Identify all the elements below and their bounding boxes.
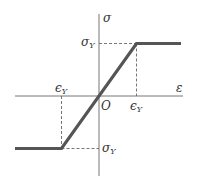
yield-strain-label-negative: ϵY <box>55 81 68 96</box>
yield-stress-label-top: σY <box>81 35 95 50</box>
yield-strain-label-positive: ϵY <box>130 99 143 114</box>
yield-stress-label-bottom: σY <box>102 141 116 156</box>
stress-strain-diagram: σ ε O σY σY ϵY ϵY <box>0 0 198 186</box>
origin-label: O <box>101 99 111 113</box>
strain-axis-label: ε <box>176 81 182 95</box>
stress-axis-label: σ <box>103 11 112 25</box>
